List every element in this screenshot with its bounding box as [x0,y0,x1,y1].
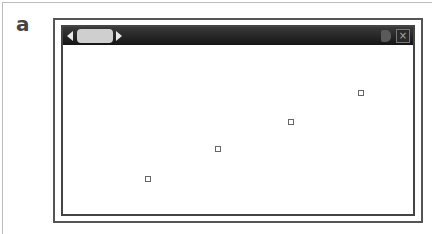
arrow-right-icon[interactable] [116,31,122,41]
arrow-left-icon[interactable] [67,31,73,41]
titlebar[interactable]: × [63,27,413,45]
data-point [358,90,364,96]
speaker-icon[interactable] [381,30,391,42]
close-button[interactable]: × [396,29,410,43]
data-point [145,176,151,182]
scroll-thumb[interactable] [77,29,113,43]
data-point [288,119,294,125]
app-window: × [61,25,415,216]
panel-label: a [16,12,30,36]
plot-area [63,45,413,214]
data-point [215,146,221,152]
